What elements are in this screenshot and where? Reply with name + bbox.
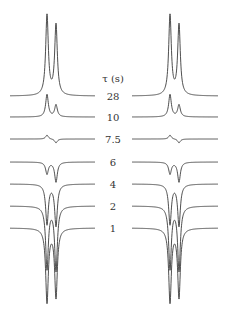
- left-panel-spectra: [10, 14, 95, 304]
- right-panel-spectra: [132, 14, 218, 304]
- spectrum-trace-left-tau-28: [10, 14, 95, 96]
- tau-label-10: 10: [107, 112, 120, 123]
- tau-label-6: 6: [110, 157, 116, 168]
- spectrum-trace-left-tau-1: [10, 228, 95, 304]
- spectrum-trace-right-tau-1: [132, 228, 218, 304]
- spectrum-trace-left-tau-7-5: [10, 135, 95, 143]
- spectrum-trace-right-tau-7-5: [132, 135, 218, 143]
- tau-label-2: 2: [110, 201, 116, 212]
- spectrum-trace-left-tau-4: [10, 184, 95, 227]
- spectrum-trace-left-tau-6: [10, 162, 95, 182]
- inversion-recovery-figure: τ (s) 28 10 7.5 6 4 2 1: [0, 0, 226, 317]
- spectrum-trace-left-tau-2: [10, 206, 95, 272]
- spectrum-trace-right-tau-2: [132, 206, 218, 272]
- tau-labels: τ (s) 28 10 7.5 6 4 2 1: [102, 73, 124, 234]
- tau-label-4: 4: [110, 179, 116, 190]
- spectrum-trace-left-tau-10: [10, 94, 95, 117]
- tau-label-28: 28: [107, 91, 120, 102]
- tau-label-1: 1: [110, 223, 116, 234]
- tau-label-7-5: 7.5: [105, 134, 121, 145]
- spectrum-trace-right-tau-28: [132, 14, 218, 96]
- tau-header-label: τ (s): [102, 73, 124, 84]
- spectrum-trace-right-tau-6: [132, 162, 218, 182]
- spectrum-trace-right-tau-10: [132, 94, 218, 117]
